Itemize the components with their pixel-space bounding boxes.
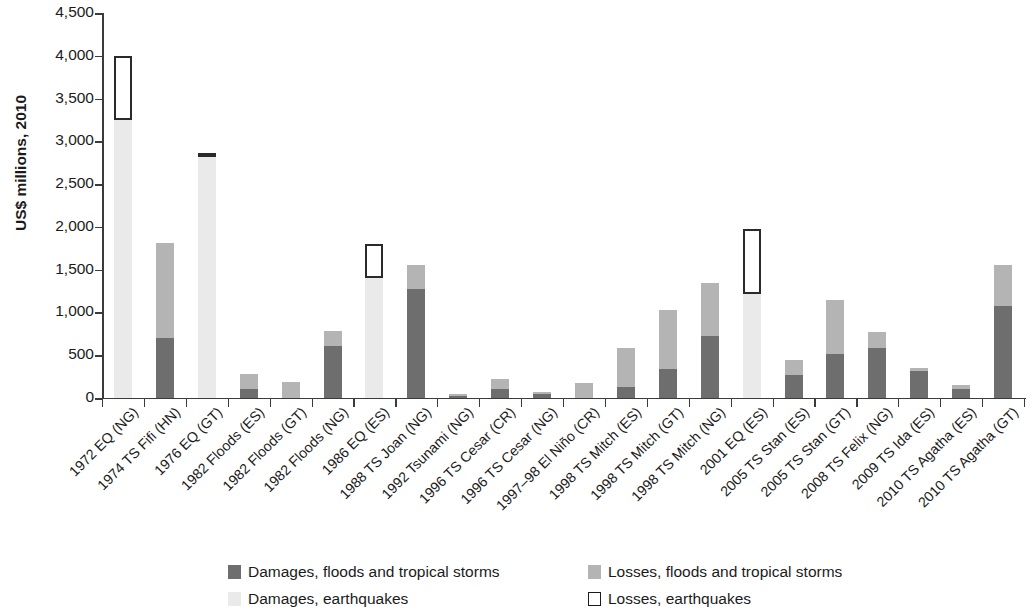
bar-segment [575,383,593,398]
bar-segment [365,278,383,398]
bar-group[interactable] [868,13,886,398]
bar-group[interactable] [365,13,383,398]
bar-segment [910,371,928,398]
legend-item[interactable]: Damages, floods and tropical storms [228,563,588,581]
y-axis-tick-mark [95,355,102,357]
bar-segment [743,294,761,398]
bar-segment [868,332,886,347]
bar-segment [240,389,258,398]
bar-group[interactable] [994,13,1012,398]
bar-group[interactable] [114,13,132,398]
bar-segment [659,310,677,369]
bar-group[interactable] [533,13,551,398]
bar-group[interactable] [952,13,970,398]
bar-segment [868,348,886,398]
bar-group[interactable] [407,13,425,398]
y-axis-tick-label: 2,500 [30,174,94,192]
y-axis-tick-label: 3,000 [30,131,94,149]
bar-group[interactable] [240,13,258,398]
bar-segment [617,387,635,398]
bar-group[interactable] [491,13,509,398]
legend-item[interactable]: Losses, earthquakes [588,590,928,608]
bar-segment [491,389,509,398]
bar-segment [785,375,803,398]
y-axis-tick-mark [95,398,102,400]
bar-segment [198,153,216,157]
legend-item[interactable]: Losses, floods and tropical storms [588,563,928,581]
x-axis-tick-labels: 1972 EQ (NG)1974 TS Fifi (HN)1976 EQ (GT… [102,400,1024,550]
plot-area [102,13,1024,398]
bar-group[interactable] [282,13,300,398]
legend-label: Damages, earthquakes [248,590,408,608]
y-axis-tick-mark [95,141,102,143]
y-axis-tick-labels: 4,5004,0003,5003,0002,5002,0001,5001,000… [26,0,94,410]
bar-segment [324,346,342,398]
bar-group[interactable] [156,13,174,398]
x-axis-tick-mark [1024,398,1025,407]
bar-segment [826,300,844,354]
bar-group[interactable] [743,13,761,398]
bar-segment [324,331,342,346]
y-axis-tick-mark [95,184,102,186]
bar-group[interactable] [449,13,467,398]
bar-segment [994,306,1012,398]
bar-group[interactable] [198,13,216,398]
bar-group[interactable] [659,13,677,398]
bar-group[interactable] [617,13,635,398]
bar-segment [198,157,216,398]
chart-legend: Damages, floods and tropical stormsLosse… [228,558,928,614]
bar-segment [701,336,719,398]
bar-group[interactable] [826,13,844,398]
legend-label: Losses, floods and tropical storms [608,563,842,581]
bar-segment [952,389,970,398]
bar-segment [407,289,425,399]
legend-item[interactable]: Damages, earthquakes [228,590,588,608]
bar-chart: US$ millions, 2010 4,5004,0003,5003,0002… [0,0,1032,616]
bar-segment [407,265,425,289]
bar-segment [449,394,467,396]
bar-segment [659,369,677,398]
bar-segment [910,368,928,371]
y-axis-tick-mark [95,13,102,15]
bar-segment [826,354,844,398]
y-axis-tick-mark [95,227,102,229]
bar-group[interactable] [324,13,342,398]
bar-segment [533,394,551,398]
bar-segment [114,56,132,120]
y-axis-tick-label: 4,500 [30,3,94,21]
legend-swatch-icon [588,565,601,579]
bar-group[interactable] [701,13,719,398]
y-axis-tick-label: 2,000 [30,217,94,235]
bar-segment [952,385,970,389]
y-axis-tick-label: 1,500 [30,260,94,278]
bar-segment [365,244,383,278]
bar-segment [743,229,761,294]
legend-label: Damages, floods and tropical storms [248,563,500,581]
y-axis-tick-label: 500 [30,345,94,363]
bar-segment [114,120,132,398]
bar-segment [282,382,300,398]
bar-segment [240,374,258,389]
y-axis-tick-mark [95,312,102,314]
bar-segment [491,379,509,390]
y-axis-tick-mark [95,270,102,272]
y-axis-tick-label: 4,000 [30,46,94,64]
bar-segment [617,348,635,387]
bar-segment [156,243,174,338]
bar-segment [701,283,719,337]
legend-swatch-icon [588,592,601,606]
legend-swatch-icon [228,592,241,606]
bar-group[interactable] [910,13,928,398]
y-axis-tick-label: 3,500 [30,89,94,107]
bar-segment [994,265,1012,306]
bar-group[interactable] [575,13,593,398]
legend-label: Losses, earthquakes [608,590,751,608]
y-axis-tick-label: 1,000 [30,302,94,320]
y-axis-tick-label: 0 [30,388,94,406]
bar-segment [785,360,803,375]
y-axis-tick-mark [95,99,102,101]
bar-group[interactable] [785,13,803,398]
bar-segment [533,392,551,394]
legend-swatch-icon [228,565,241,579]
bar-segment [449,396,467,398]
